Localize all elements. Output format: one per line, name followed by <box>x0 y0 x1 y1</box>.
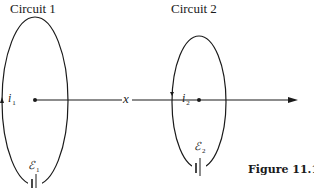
two-circuits-diagram: Circuit 1 Circuit 2 i1 i2 x ℰ1 ℰ2 Figure… <box>0 0 314 188</box>
emf-2-label: ℰ2 <box>194 140 206 153</box>
diagram-canvas <box>0 0 314 188</box>
current-2-label: i2 <box>182 91 190 106</box>
circuit-1-center-dot <box>33 98 37 102</box>
axis-x-label: x <box>123 91 129 107</box>
current-1-label: i1 <box>8 91 16 106</box>
current-1-arrow-icon <box>0 97 4 103</box>
axis-arrow-icon <box>288 97 298 103</box>
figure-caption: Figure 11.11 <box>248 163 314 176</box>
circuit-2-title: Circuit 2 <box>171 1 217 17</box>
current-2-arrow-icon <box>170 92 174 96</box>
circuit-1-title: Circuit 1 <box>10 1 56 17</box>
emf-1-label: ℰ1 <box>28 159 40 172</box>
circuit-2-center-dot <box>197 98 201 102</box>
